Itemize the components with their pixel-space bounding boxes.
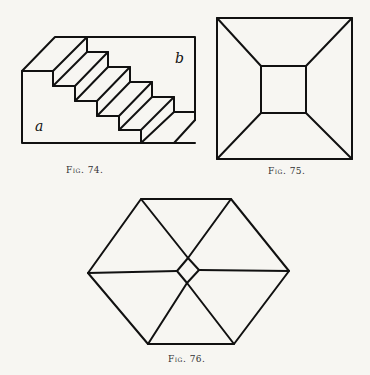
fig76-hexagon [88, 199, 289, 344]
fig76-caption: Fig. 76. [168, 354, 205, 364]
fig75-caption: Fig. 75. [268, 166, 305, 176]
fig74-label-a: a [35, 118, 43, 134]
fig75-square [217, 18, 352, 159]
figures-canvas [0, 0, 370, 375]
fig74-caption: Fig. 74. [66, 165, 103, 175]
fig74-staircase [22, 37, 195, 143]
fig74-label-b: b [175, 50, 184, 66]
